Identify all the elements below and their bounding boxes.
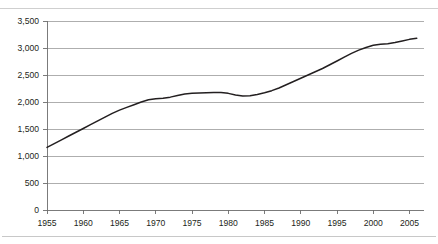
y-axis-tick-label: 3,500 (17, 16, 39, 26)
y-axis-labels-group: 05001,0001,5002,0002,5003,0003,500 (17, 16, 39, 215)
y-axis-tick-label: 1,500 (17, 124, 39, 134)
y-axis-tick-label: 2,000 (17, 97, 39, 107)
x-axis-tick-label: 1975 (182, 218, 201, 228)
x-axis-tick-label: 1965 (110, 218, 129, 228)
data-series-line (47, 38, 417, 147)
x-axis-tick-label: 1980 (219, 218, 238, 228)
x-axis-tick-label: 2005 (400, 218, 419, 228)
y-axis-tick-label: 3,000 (17, 43, 39, 53)
bottom-divider-rule (2, 236, 436, 237)
x-axis-labels-group: 1955196019651970197519801985199019952000… (37, 218, 419, 228)
y-axis-tick-label: 1,000 (17, 151, 39, 161)
y-axis-tick-label: 0 (34, 205, 39, 215)
x-axis-tick-label: 1985 (255, 218, 274, 228)
y-axis-tick-label: 500 (25, 178, 40, 188)
axis-ticks-group (43, 21, 410, 214)
y-axis-tick-label: 2,500 (17, 70, 39, 80)
x-axis-tick-label: 1970 (146, 218, 165, 228)
gridlines-group (47, 21, 424, 183)
line-chart-figure: 05001,0001,5002,0002,5003,0003,500 19551… (0, 0, 438, 244)
chart-plot-area: 05001,0001,5002,0002,5003,0003,500 19551… (0, 0, 438, 244)
x-axis-tick-label: 1990 (291, 218, 310, 228)
x-axis-tick-label: 1995 (327, 218, 346, 228)
x-axis-tick-label: 2000 (364, 218, 383, 228)
x-axis-tick-label: 1955 (37, 218, 56, 228)
x-axis-tick-label: 1960 (74, 218, 93, 228)
